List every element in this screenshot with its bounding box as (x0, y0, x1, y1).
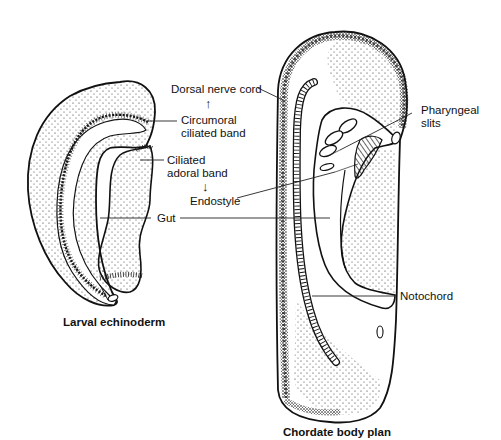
arrow-down-icon: ↓ (202, 181, 209, 193)
chordate-drawing (277, 32, 408, 423)
label-pharyngeal-line2: slits (421, 117, 441, 129)
arrow-up-icon: ↑ (205, 98, 212, 110)
label-ciliated-line2: adoral band (167, 167, 228, 179)
diagram-canvas (0, 0, 501, 440)
label-gut: Gut (157, 212, 176, 224)
label-dorsal-nerve-cord: Dorsal nerve cord (171, 83, 262, 95)
caption-larval-echinoderm: Larval echinoderm (63, 316, 165, 328)
label-notochord: Notochord (400, 290, 453, 302)
label-circumoral-line1: Circumoral (181, 114, 237, 126)
label-pharyngeal-line1: Pharyngeal (421, 104, 479, 116)
caption-chordate-body-plan: Chordate body plan (283, 426, 391, 438)
label-circumoral-line2: ciliated band (181, 127, 246, 139)
echinoderm-gut (99, 146, 153, 292)
label-endostyle: Endostyle (190, 195, 241, 207)
label-ciliated-line1: Ciliated (167, 154, 205, 166)
larval-echinoderm-drawing (28, 81, 155, 305)
